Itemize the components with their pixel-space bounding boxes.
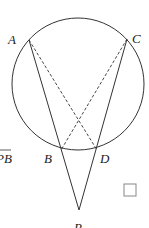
label-b: B xyxy=(44,151,52,166)
geometry-diagram: A C B D P PB xyxy=(0,0,149,228)
segment-cp xyxy=(79,39,127,210)
chord-cb-dashed xyxy=(61,39,127,150)
label-c: C xyxy=(132,31,141,46)
segment-ap xyxy=(29,40,79,210)
label-p: P xyxy=(73,220,82,228)
answer-checkbox[interactable] xyxy=(124,184,136,196)
label-a: A xyxy=(7,32,16,47)
edge-text-pb: PB xyxy=(0,151,12,166)
label-d: D xyxy=(99,151,110,166)
circle xyxy=(12,18,144,150)
chord-ad-dashed xyxy=(29,40,97,150)
